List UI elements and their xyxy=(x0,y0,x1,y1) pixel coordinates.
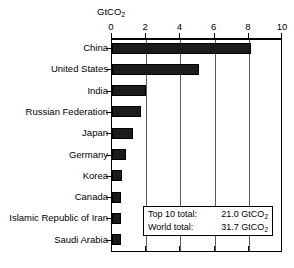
axis-unit-label-text: GtCO xyxy=(97,6,121,17)
bar-row: Korea xyxy=(0,167,294,188)
bar-row: Japan xyxy=(0,124,294,145)
annotation-row: World total:31.7 GtCO2 xyxy=(148,221,268,234)
category-tick-mark xyxy=(106,240,111,241)
axis-unit-label: GtCO2 xyxy=(97,6,125,18)
category-tick-mark xyxy=(106,155,111,156)
category-label: Korea xyxy=(83,170,108,182)
bar xyxy=(112,170,122,181)
totals-annotation-box: Top 10 total:21.0 GtCO2World total:31.7 … xyxy=(143,206,273,236)
category-label: India xyxy=(87,85,108,97)
category-tick-mark xyxy=(106,218,111,219)
category-label: Saudi Arabia xyxy=(54,234,108,246)
category-tick-mark xyxy=(106,133,111,134)
co2-emissions-bar-chart: GtCO2 0246810 ChinaUnited StatesIndiaRus… xyxy=(0,0,294,268)
category-label: Canada xyxy=(75,191,108,203)
bar-row: Germany xyxy=(0,146,294,167)
category-tick-mark xyxy=(106,69,111,70)
x-axis-tick-label: 2 xyxy=(143,21,148,33)
x-axis-tick-label: 8 xyxy=(245,21,250,33)
bar xyxy=(112,234,121,245)
category-label: China xyxy=(83,42,108,54)
x-axis-tick-label: 4 xyxy=(177,21,182,33)
category-label: Russian Federation xyxy=(26,106,108,118)
bar xyxy=(112,85,146,96)
annotation-value-subscript: 2 xyxy=(264,213,268,220)
bar xyxy=(112,213,121,224)
bar xyxy=(112,192,121,203)
bar xyxy=(112,128,133,139)
bar xyxy=(112,106,141,117)
bar-row: India xyxy=(0,82,294,103)
category-label: United States xyxy=(51,63,108,75)
x-axis-tick-label: 0 xyxy=(108,21,113,33)
category-label: Islamic Republic of Iran xyxy=(9,212,108,224)
x-axis-tick-label: 10 xyxy=(277,21,288,33)
category-label: Japan xyxy=(82,127,108,139)
bar xyxy=(112,64,199,75)
bar-row: United States xyxy=(0,60,294,81)
x-axis-tick-label: 6 xyxy=(211,21,216,33)
bar-row: China xyxy=(0,39,294,60)
category-tick-mark xyxy=(106,197,111,198)
axis-unit-label-subscript: 2 xyxy=(121,11,125,18)
annotation-label: Top 10 total: xyxy=(148,208,197,221)
category-tick-mark xyxy=(106,112,111,113)
bar-row: Russian Federation xyxy=(0,103,294,124)
category-label: Germany xyxy=(69,149,108,161)
annotation-row: Top 10 total:21.0 GtCO2 xyxy=(148,208,268,221)
annotation-value: 31.7 GtCO2 xyxy=(221,221,268,234)
annotation-value-subscript: 2 xyxy=(264,226,268,233)
category-tick-mark xyxy=(106,91,111,92)
category-tick-mark xyxy=(106,48,111,49)
category-tick-mark xyxy=(106,176,111,177)
bar xyxy=(112,43,251,54)
bar xyxy=(112,149,126,160)
annotation-value: 21.0 GtCO2 xyxy=(221,208,268,221)
annotation-label: World total: xyxy=(148,221,193,234)
